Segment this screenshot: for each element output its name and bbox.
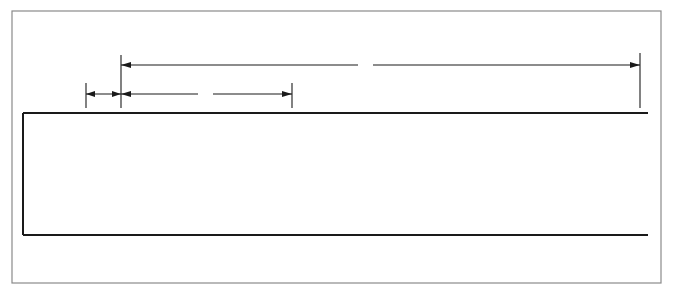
ruler-body (23, 113, 648, 235)
dimension-b (121, 87, 292, 102)
dimension-c (121, 58, 640, 73)
dimension-a (86, 78, 121, 97)
figure-frame (12, 11, 661, 283)
ruler-brand (523, 148, 555, 160)
dimension-lines (86, 53, 640, 108)
ruler-diagram (0, 0, 673, 297)
